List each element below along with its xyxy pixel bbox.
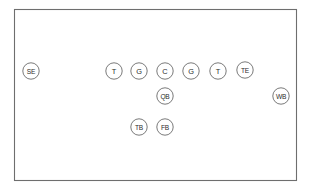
player-marker-center[interactable]: C — [157, 63, 173, 79]
formation-diagram: SETGCGTTEQBWBTBFB — [0, 0, 309, 192]
player-marker-split-end[interactable]: SE — [23, 63, 39, 79]
player-label-wingback: WB — [276, 93, 287, 100]
field-boundary — [15, 10, 297, 181]
player-marker-right-tackle[interactable]: T — [210, 63, 226, 79]
player-label-split-end: SE — [27, 68, 36, 75]
player-marker-right-guard[interactable]: G — [183, 63, 199, 79]
player-label-quarterback: QB — [160, 93, 170, 101]
player-marker-fullback[interactable]: FB — [157, 119, 173, 135]
player-marker-quarterback[interactable]: QB — [157, 88, 173, 104]
player-label-center: C — [162, 67, 168, 76]
player-label-left-guard: G — [136, 67, 142, 76]
football-field-svg: SETGCGTTEQBWBTBFB — [0, 0, 309, 192]
player-label-tailback: TB — [135, 124, 144, 131]
player-label-tight-end: TE — [241, 67, 250, 74]
player-label-right-tackle: T — [216, 67, 221, 76]
player-marker-tight-end[interactable]: TE — [237, 62, 253, 78]
player-marker-left-tackle[interactable]: T — [106, 63, 122, 79]
player-label-right-guard: G — [188, 67, 194, 76]
player-marker-left-guard[interactable]: G — [131, 63, 147, 79]
player-marker-wingback[interactable]: WB — [273, 88, 289, 104]
player-label-left-tackle: T — [112, 67, 117, 76]
player-marker-tailback[interactable]: TB — [131, 119, 147, 135]
player-label-fullback: FB — [161, 124, 170, 131]
